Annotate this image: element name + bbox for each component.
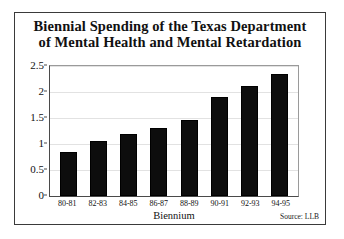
chart-title-line-1: Biennial Spending of the Texas Departmen… — [15, 18, 325, 34]
bar-84-85 — [120, 134, 137, 196]
bar-slot — [235, 66, 265, 196]
bar-slot — [204, 66, 234, 196]
source-note: Source: LLB — [280, 212, 319, 221]
y-axis-tick-label: 1.5 — [30, 112, 44, 123]
x-axis-title: Biennium — [49, 210, 299, 222]
y-axis-tick-mark — [44, 117, 47, 118]
y-axis-tick-label: 0.5 — [30, 164, 44, 175]
plot-area — [49, 65, 299, 197]
bar-slot — [265, 66, 295, 196]
bar-slot — [174, 66, 204, 196]
bar-94-95 — [271, 74, 288, 196]
y-axis-tick-mark — [44, 169, 47, 170]
y-axis: 00.511.522.5 — [15, 65, 47, 197]
y-axis-tick-label: 2.5 — [30, 60, 44, 71]
y-axis-tick-mark — [44, 195, 47, 196]
bar-series — [50, 66, 298, 196]
bar-80-81 — [60, 152, 77, 196]
bar-slot — [114, 66, 144, 196]
y-axis-tick-mark — [44, 91, 47, 92]
bar-90-91 — [211, 97, 228, 196]
bar-88-89 — [181, 120, 198, 196]
bar-slot — [83, 66, 113, 196]
bar-slot — [53, 66, 83, 196]
chart-title: Biennial Spending of the Texas Departmen… — [15, 18, 325, 50]
y-axis-tick-mark — [44, 143, 47, 144]
y-axis-tick-mark — [44, 65, 47, 66]
chart-title-line-2: of Mental Health and Mental Retardation — [15, 34, 325, 50]
bar-86-87 — [150, 128, 167, 196]
bar-82-83 — [90, 141, 107, 196]
chart-figure: Biennial Spending of the Texas Departmen… — [14, 12, 326, 225]
bar-slot — [144, 66, 174, 196]
bar-92-93 — [241, 86, 258, 196]
